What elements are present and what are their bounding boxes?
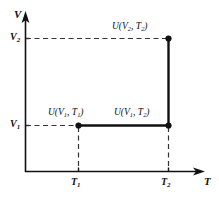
state-label-v1t1-sub1: 1 — [64, 111, 67, 118]
v2-tick-label: V2 — [10, 32, 20, 42]
v1-tick-label: V1 — [10, 119, 20, 129]
axis-group — [22, 11, 205, 175]
state-label-v2t2-var1: V — [122, 21, 128, 31]
state-label-v1t1: U(V1, T1) — [48, 108, 84, 118]
t2-tick-label: T2 — [161, 177, 171, 187]
v1-tick-label-sub: 1 — [17, 123, 20, 130]
state-label-v1t2-prefix: U( — [114, 107, 124, 117]
t-axis-label: T — [204, 176, 211, 187]
v-axis-label: V — [14, 9, 21, 20]
v2-tick-label-main: V — [10, 31, 17, 42]
state-label-v1t1-var1: V — [58, 107, 64, 117]
state-label-v1t1-prefix: U( — [48, 107, 58, 117]
tick-mark-group — [26, 39, 169, 172]
v1-tick-label-main: V — [10, 118, 17, 129]
state-point-v1t1[interactable] — [75, 122, 81, 128]
state-point-v1t2[interactable] — [165, 122, 171, 128]
state-label-v2t2-prefix: U( — [112, 21, 122, 31]
t1-tick-label-sub: 1 — [77, 181, 80, 188]
state-label-v1t1-suffix: ) — [80, 107, 83, 117]
state-point-v2t2[interactable] — [165, 35, 171, 41]
state-label-v1t1-sub2: 1 — [77, 111, 80, 118]
t2-tick-label-sub: 2 — [167, 181, 170, 188]
state-label-v2t2-sub2: 2 — [141, 25, 144, 32]
state-label-v1t2-suffix: ) — [146, 107, 149, 117]
v2-tick-label-sub: 2 — [17, 36, 20, 43]
diagram-canvas — [0, 0, 219, 197]
state-diagram-figure: V T V2 V1 T1 T2 U(V2, T2) U(V1, T1) U(V1… — [0, 0, 219, 197]
state-label-v1t2-sub1: 1 — [130, 111, 133, 118]
state-label-v2t2-sub1: 2 — [128, 25, 131, 32]
state-label-v2t2: U(V2, T2) — [112, 22, 148, 32]
state-label-v1t2: U(V1, T2) — [114, 108, 150, 118]
state-label-v1t2-var1: V — [124, 107, 130, 117]
guide-line-group — [26, 39, 169, 171]
state-label-v2t2-suffix: ) — [144, 21, 147, 31]
t1-tick-label: T1 — [71, 177, 81, 187]
state-label-v1t2-sub2: 2 — [143, 111, 146, 118]
